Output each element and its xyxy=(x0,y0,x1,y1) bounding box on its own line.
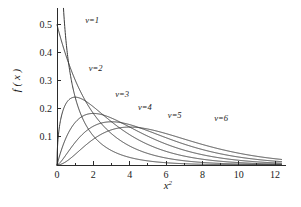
y-tick-label: 0.3 xyxy=(40,75,53,86)
chi-square-density-figure: 0246810120.10.20.30.40.5 v=1v=2v=3v=4v=5… xyxy=(0,0,301,207)
y-axis-title: f ( x ) xyxy=(10,68,23,92)
y-tick-label: 0.2 xyxy=(40,103,53,114)
axes-group xyxy=(57,8,286,165)
curve-label-v-5: v=5 xyxy=(168,110,182,120)
curve-v-2 xyxy=(57,25,281,165)
chart-canvas: 0246810120.10.20.30.40.5 v=1v=2v=3v=4v=5… xyxy=(0,0,301,207)
curve-label-v-6: v=6 xyxy=(214,113,229,123)
y-tick-label: 0.4 xyxy=(40,47,53,58)
curve-label-v-1: v=1 xyxy=(85,15,99,25)
x-tick-label: 8 xyxy=(200,169,205,180)
y-tick-label: 0.1 xyxy=(40,131,53,142)
curve-labels-group: v=1v=2v=3v=4v=5v=6 xyxy=(85,15,229,122)
curve-v-1 xyxy=(63,8,281,165)
curve-label-v-4: v=4 xyxy=(138,102,153,112)
x-tick-label: 2 xyxy=(91,169,96,180)
curve-label-v-2: v=2 xyxy=(89,63,104,73)
x-tick-label: 10 xyxy=(234,169,244,180)
y-tick-label: 0.5 xyxy=(40,19,53,30)
curve-label-v-3: v=3 xyxy=(115,89,129,99)
x-tick-label: 4 xyxy=(127,169,132,180)
x-tick-label: 12 xyxy=(270,169,280,180)
figure-caption xyxy=(0,193,301,207)
curves-group xyxy=(57,8,281,165)
x-axis-title: x2 xyxy=(163,179,173,191)
x-tick-label: 0 xyxy=(55,169,60,180)
